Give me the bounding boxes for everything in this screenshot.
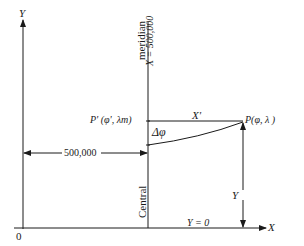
projection-diagram: Y X 0 meridian X = 500,000 Central P' (φ… bbox=[0, 0, 304, 246]
y-axis-label: Y bbox=[19, 8, 25, 19]
false-easting-label: 500,000 bbox=[64, 148, 97, 158]
y-dimension-label: Y bbox=[232, 190, 238, 201]
delta-phi-label: Δφ bbox=[152, 126, 166, 138]
origin-label: 0 bbox=[16, 231, 22, 242]
y-zero-label: Y = 0 bbox=[187, 218, 209, 228]
x-axis-label: X bbox=[268, 222, 275, 233]
central-label: Central bbox=[137, 186, 148, 218]
x-prime-label: X' bbox=[192, 110, 201, 121]
point-p-label: P(φ, λ ) bbox=[245, 115, 275, 125]
meridian-x-value-label: X = 500,000 bbox=[145, 16, 155, 66]
point-p-prime-label: P' (φ', λm) bbox=[90, 115, 132, 125]
